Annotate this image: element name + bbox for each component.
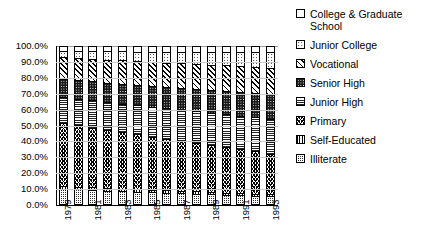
legend-item-illiterate[interactable]: Illiterate (296, 153, 433, 165)
bar-segment-vocational[interactable] (134, 62, 141, 86)
bar-segment-juniorcollege[interactable] (193, 53, 200, 65)
bar-segment-juniorhigh[interactable] (223, 115, 230, 148)
y-axis-tick-label: 20.0% (21, 168, 48, 178)
bar-segment-juniorhigh[interactable] (149, 108, 156, 138)
x-tick-slot: 1987 (174, 207, 189, 250)
bar-segment-vocational[interactable] (267, 69, 274, 95)
gridline (56, 62, 278, 63)
bar-segment-vocational[interactable] (89, 60, 96, 83)
bar-segment-juniorcollege[interactable] (134, 53, 141, 63)
x-tick-slot (219, 207, 234, 250)
x-tick-slot (189, 207, 204, 250)
bar-segment-primary[interactable] (104, 131, 111, 189)
bar-segment-illiterate[interactable] (163, 194, 170, 204)
bar-segment-juniorhigh[interactable] (75, 100, 82, 127)
bar-segment-seniorhigh[interactable] (149, 87, 156, 108)
bar-segment-vocational[interactable] (252, 68, 259, 94)
bar-segment-illiterate[interactable] (223, 196, 230, 204)
x-tick-slot (71, 207, 86, 250)
y-axis-labels: 100.0%90.0%80.0%70.0%60.0%50.0%40.0%30.0… (0, 0, 50, 250)
gridline (56, 141, 278, 142)
legend-item-selfeducated[interactable]: Self-Educated (296, 134, 433, 146)
bar-segment-primary[interactable] (193, 144, 200, 193)
bar-segment-vocational[interactable] (237, 67, 244, 93)
bar-segment-seniorhigh[interactable] (237, 93, 244, 117)
bar-segment-illiterate[interactable] (193, 195, 200, 204)
bar-segment-primary[interactable] (208, 146, 215, 193)
legend-swatch-dark-checker-icon (296, 154, 305, 163)
bar-segment-juniorhigh[interactable] (237, 117, 244, 151)
bar-segment-seniorhigh[interactable] (75, 81, 82, 100)
bar-segment-juniorcollege[interactable] (237, 53, 244, 67)
bar-segment-illiterate[interactable] (104, 192, 111, 204)
bar-segment-primary[interactable] (223, 148, 230, 194)
bar-segment-seniorhigh[interactable] (267, 95, 274, 120)
y-axis-tick-label: 10.0% (21, 184, 48, 194)
bar-segment-vocational[interactable] (223, 66, 230, 91)
y-axis-tick-label: 80.0% (21, 73, 48, 83)
legend-item-primary[interactable]: Primary (296, 115, 433, 127)
bar-segment-primary[interactable] (60, 124, 67, 187)
legend-item-seniorhigh[interactable]: Senior High (296, 77, 433, 89)
chart-legend: College & Graduate SchoolJunior CollegeV… (296, 8, 433, 172)
gridline (56, 157, 278, 158)
legend-item-juniorhigh[interactable]: Junior High (296, 96, 433, 108)
bar-segment-seniorhigh[interactable] (223, 92, 230, 115)
bar-segment-primary[interactable] (149, 138, 156, 191)
bar-segment-juniorcollege[interactable] (223, 53, 230, 66)
bar-segment-seniorhigh[interactable] (134, 86, 141, 106)
bar-segment-juniorcollege[interactable] (104, 52, 111, 60)
legend-label: Illiterate (310, 153, 347, 165)
plot-area-wrapper: 100.0%90.0%80.0%70.0%60.0%50.0%40.0%30.0… (0, 0, 285, 250)
bar-segment-seniorhigh[interactable] (178, 89, 185, 111)
bar-segment-illiterate[interactable] (252, 197, 259, 204)
legend-label: Junior High (310, 96, 363, 108)
bar-segment-vocational[interactable] (163, 64, 170, 88)
bar-segment-juniorcollege[interactable] (75, 52, 82, 59)
bar-segment-juniorcollege[interactable] (60, 52, 67, 59)
legend-item-juniorcollege[interactable]: Junior College (296, 39, 433, 51)
bar-segment-seniorhigh[interactable] (89, 82, 96, 101)
legend-label: Junior College (310, 39, 377, 51)
legend-swatch-wave-scale-icon (296, 116, 305, 125)
bar-segment-juniorcollege[interactable] (208, 53, 215, 66)
legend-swatch-diagonal-hatch-icon (296, 9, 305, 18)
legend-item-vocational[interactable]: Vocational (296, 58, 433, 70)
bar-segment-seniorhigh[interactable] (163, 88, 170, 109)
bar-segment-juniorhigh[interactable] (193, 112, 200, 144)
bar-segment-primary[interactable] (178, 142, 185, 192)
x-tick-slot: 1981 (86, 207, 101, 250)
x-axis-tick-label: 1993 (271, 199, 281, 220)
bar-segment-primary[interactable] (134, 135, 141, 190)
legend-swatch-dark-speckle-icon (296, 78, 305, 87)
bar-segment-juniorhigh[interactable] (104, 103, 111, 131)
bar-segment-illiterate[interactable] (75, 190, 82, 204)
x-tick-slot: 1985 (145, 207, 160, 250)
legend-item-collegegraduateschool[interactable]: College & Graduate School (296, 8, 433, 32)
bar-segment-juniorcollege[interactable] (119, 52, 126, 61)
bar-segment-seniorhigh[interactable] (252, 94, 259, 118)
y-axis-tick-label: 30.0% (21, 152, 48, 162)
bar-segment-seniorhigh[interactable] (60, 80, 67, 98)
bar-segment-juniorhigh[interactable] (60, 98, 67, 124)
legend-label: College & Graduate School (310, 8, 433, 32)
legend-label: Vocational (310, 58, 358, 70)
bar-segment-primary[interactable] (163, 140, 170, 192)
plot-area (56, 46, 278, 205)
bar-segment-illiterate[interactable] (134, 193, 141, 204)
bar-segment-juniorhigh[interactable] (252, 118, 259, 152)
bar-segment-juniorcollege[interactable] (252, 53, 259, 68)
stacked-bar-chart: 100.0%90.0%80.0%70.0%60.0%50.0%40.0%30.0… (0, 0, 433, 250)
bar-segment-vocational[interactable] (119, 61, 126, 84)
gridline (56, 94, 278, 95)
bar-segment-primary[interactable] (89, 129, 96, 189)
bar-segment-vocational[interactable] (178, 64, 185, 88)
x-tick-slot: 1983 (115, 207, 130, 250)
legend-swatch-dotted-icon (296, 40, 305, 49)
bar-segment-vocational[interactable] (149, 63, 156, 87)
bar-segment-vocational[interactable] (104, 61, 111, 84)
bar-segment-juniorhigh[interactable] (163, 109, 170, 139)
bar-segment-juniorcollege[interactable] (89, 52, 96, 60)
x-tick-slot (248, 207, 263, 250)
legend-label: Self-Educated (310, 134, 376, 146)
